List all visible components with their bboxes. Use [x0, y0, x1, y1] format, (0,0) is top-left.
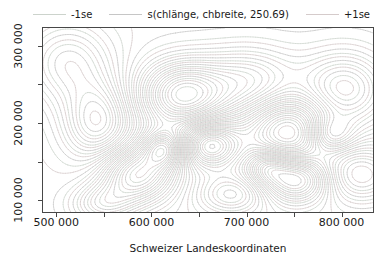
y-axis-tick	[38, 123, 42, 124]
contour-path-estimate	[43, 28, 373, 212]
plus-1se-line-key	[306, 14, 339, 15]
x-tick-label: 600 000	[129, 216, 175, 229]
x-axis-tick	[199, 213, 200, 217]
legend-entry-minus-1se: -1se	[33, 9, 92, 20]
legend-label-smooth: s(chlänge, chbreite, 250.69)	[147, 9, 288, 20]
legend-label-minus-1se: -1se	[71, 9, 92, 20]
legend-label-plus-1se: +1se	[344, 9, 370, 20]
contour-lines	[43, 28, 373, 212]
y-tick-label: 200 000	[12, 100, 25, 146]
y-axis-tick	[38, 200, 42, 201]
legend-entry-plus-1se: +1se	[306, 9, 370, 20]
y-axis-tick	[38, 162, 42, 163]
x-tick-label: 500 000	[34, 216, 80, 229]
contour-plot-figure: -1se s(chlänge, chbreite, 250.69) +1se 5…	[0, 0, 381, 264]
y-tick-label: 100 000	[12, 178, 25, 224]
x-tick-label: 800 000	[319, 216, 365, 229]
x-axis-title: Schweizer Landeskoordinaten	[130, 242, 287, 254]
x-axis-tick	[104, 213, 105, 217]
x-tick-label: 700 000	[224, 216, 270, 229]
x-axis-tick	[294, 213, 295, 217]
y-tick-label: 300 000	[12, 23, 25, 69]
minus-1se-line-key	[33, 14, 66, 15]
y-axis-tick	[38, 84, 42, 85]
plot-legend: -1se s(chlänge, chbreite, 250.69) +1se	[33, 6, 370, 22]
smooth-line-key	[109, 14, 142, 15]
contour-path-minus-1se	[43, 28, 373, 212]
contour-path-plus-1se	[43, 28, 373, 212]
y-axis-tick	[38, 46, 42, 47]
legend-entry-smooth: s(chlänge, chbreite, 250.69)	[109, 9, 288, 20]
